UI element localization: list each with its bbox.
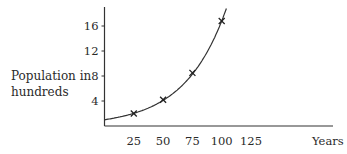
data-markers — [131, 18, 225, 117]
x-tick-label: 75 — [185, 134, 200, 148]
x-tick-label: 100 — [211, 134, 233, 148]
x-tick-label: 50 — [156, 134, 171, 148]
chart-plot: 481216255075100125 Years — [0, 0, 347, 154]
y-tick-label: 8 — [91, 69, 98, 83]
y-tick-label: 4 — [91, 94, 98, 108]
x-marker-icon — [160, 97, 166, 103]
x-marker-icon — [219, 18, 225, 24]
axes — [105, 7, 334, 126]
x-axis-label: Years — [311, 134, 344, 148]
x-tick-label: 25 — [126, 134, 141, 148]
ticks: 481216255075100125 — [84, 19, 262, 148]
population-curve — [105, 9, 227, 120]
y-tick-label: 16 — [84, 19, 99, 33]
y-tick-label: 12 — [84, 44, 99, 58]
x-tick-label: 125 — [240, 134, 262, 148]
